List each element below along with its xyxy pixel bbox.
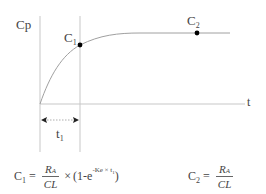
- c1-paren-close: ): [115, 169, 119, 184]
- c2-label: C2: [187, 14, 200, 27]
- c1-label: C1: [64, 31, 77, 44]
- arrow-left-icon: [41, 117, 47, 123]
- y-axis-label: Cp: [16, 18, 31, 31]
- c2-formula: C2 = RA CL: [188, 163, 236, 190]
- c1-formula: C1 = RA CL × (1-e -Ke × t1 ): [14, 163, 119, 190]
- c1-point: [78, 43, 83, 48]
- c1-exp-base: (1-e: [73, 169, 92, 184]
- times-sign: ×: [64, 169, 71, 184]
- c2-formula-lhs: C2: [188, 169, 200, 184]
- equals-sign: =: [29, 169, 36, 184]
- c2-point: [195, 31, 200, 36]
- x-axis-label: t: [247, 96, 250, 108]
- c1-formula-lhs: C1: [14, 169, 26, 184]
- arrow-right-icon: [73, 117, 79, 123]
- c1-exponent: -Ke × t1: [92, 166, 114, 174]
- t1-label: t1: [56, 127, 64, 140]
- c1-fraction: RA CL: [42, 163, 59, 190]
- equals-sign: =: [203, 169, 210, 184]
- c2-fraction: RA CL: [216, 163, 233, 190]
